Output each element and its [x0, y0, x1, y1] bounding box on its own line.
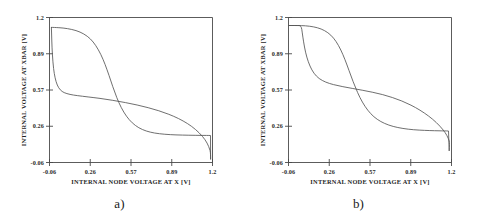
- y-tick-label: 0.89: [272, 50, 283, 57]
- y-axis-tick-labels-b: 1.2 0.89 0.57 0.26 -0.06: [270, 14, 283, 166]
- plot-frame-a: [50, 18, 213, 163]
- subfigure-b: 1.2 0.89 0.57 0.26 -0.06 -0.06 0.26 0.57…: [239, 0, 478, 213]
- x-tick-label: 1.2: [208, 168, 216, 175]
- x-axis-title-b: INTERNAL NODE VOLTAGE AT X [V]: [310, 178, 429, 185]
- vtc-curve-reverse-a: [51, 27, 210, 159]
- y-tick-label: 0.57: [272, 86, 283, 93]
- subfigure-caption-a: a): [0, 196, 239, 212]
- subfigure-caption-b: b): [239, 196, 478, 212]
- y-axis-title-b: INTERNAL VOLTAGE AT XBAR [V]: [259, 34, 266, 146]
- x-tick-label: 0.89: [405, 168, 416, 175]
- x-tick-label: 0.26: [324, 168, 335, 175]
- y-tick-label: 1.2: [275, 14, 283, 21]
- x-tick-label: 0.26: [85, 168, 96, 175]
- x-tick-label: 1.2: [447, 168, 455, 175]
- vtc-curve-forward-a: [51, 27, 210, 159]
- plot-b: 1.2 0.89 0.57 0.26 -0.06 -0.06 0.26 0.57…: [239, 0, 478, 213]
- y-tick-label: 0.26: [33, 122, 44, 129]
- vtc-curve-forward-b: [289, 26, 449, 151]
- y-tick-label: -0.06: [270, 159, 283, 166]
- curve-group-b: [289, 26, 450, 151]
- y-axis-tick-labels-a: 1.2 0.89 0.57 0.26 -0.06: [31, 14, 44, 166]
- vtc-curve-reverse-b: [289, 26, 450, 151]
- x-axis-tick-labels-a: -0.06 0.26 0.57 0.89 1.2: [43, 168, 217, 175]
- x-tick-label: 0.57: [125, 168, 136, 175]
- x-axis-tick-labels-b: -0.06 0.26 0.57 0.89 1.2: [282, 168, 456, 175]
- y-tick-label: 0.89: [33, 50, 44, 57]
- y-tick-label: -0.06: [31, 159, 44, 166]
- plot-frame-b: [289, 18, 452, 163]
- y-tick-label: 0.26: [272, 122, 283, 129]
- x-axis-title-a: INTERNAL NODE VOLTAGE AT X [V]: [71, 178, 190, 185]
- subfigure-a: 1.2 0.89 0.57 0.26 -0.06 -0.06 0.26 0.57…: [0, 0, 239, 213]
- y-axis-title-a: INTERNAL VOLTAGE AT XBAR [V]: [20, 34, 27, 146]
- x-tick-label: -0.06: [282, 168, 295, 175]
- curve-group-a: [51, 27, 210, 159]
- x-tick-label: 0.57: [364, 168, 375, 175]
- plot-a: 1.2 0.89 0.57 0.26 -0.06 -0.06 0.26 0.57…: [0, 0, 239, 213]
- y-tick-label: 0.57: [33, 86, 44, 93]
- figure-butterfly-curves: 1.2 0.89 0.57 0.26 -0.06 -0.06 0.26 0.57…: [0, 0, 478, 213]
- x-tick-label: -0.06: [43, 168, 56, 175]
- x-tick-label: 0.89: [166, 168, 177, 175]
- y-tick-label: 1.2: [36, 14, 44, 21]
